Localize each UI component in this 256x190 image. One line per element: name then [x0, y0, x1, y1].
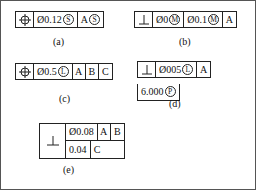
- material-condition-modifier: M: [169, 14, 180, 25]
- datum-cell: A: [223, 12, 236, 27]
- tolerance-cell: Ø0.5L: [34, 64, 73, 79]
- datum-cell-secondary: B: [86, 64, 99, 79]
- diameter-symbol: Ø: [69, 127, 76, 137]
- perpendicularity-symbol: [135, 12, 153, 27]
- feature-control-frame-b: Ø0M Ø0.1M A: [134, 11, 237, 31]
- fcf-e-frame: Ø0.08 A B 0.04 C: [39, 123, 125, 159]
- figure-caption-b: (b): [179, 36, 191, 47]
- tolerance-value: 0.08: [76, 127, 94, 137]
- tolerance-cell: Ø0.12S: [34, 12, 78, 27]
- fcf-b-frame: Ø0M Ø0.1M A: [134, 11, 237, 28]
- figure-caption-a: (a): [53, 36, 64, 47]
- tolerance-cell: Ø0M: [153, 12, 184, 27]
- position-symbol: [16, 64, 34, 79]
- datum-cell-primary: C: [91, 141, 104, 158]
- datum-cell-secondary: B: [111, 124, 124, 140]
- diameter-symbol: Ø: [159, 65, 166, 75]
- tolerance-value: 005: [166, 65, 181, 75]
- composite-row-upper: Ø0.08 A B: [66, 124, 124, 141]
- composite-row-lower: 0.04 C: [66, 141, 124, 158]
- diameter-symbol: Ø: [37, 67, 44, 77]
- diameter-symbol: Ø: [37, 15, 44, 25]
- tolerance-value: 0.04: [69, 145, 87, 155]
- datum-cell-primary: A: [98, 124, 111, 140]
- feature-control-frame-a: Ø0.12S AS: [15, 11, 104, 31]
- datum-cell-tertiary: C: [99, 64, 112, 79]
- tolerance-value: 0.5: [44, 67, 57, 77]
- tolerance-cell: Ø0.08: [66, 124, 98, 140]
- datum-cell: A: [197, 62, 210, 77]
- material-condition-modifier: M: [208, 14, 219, 25]
- datum-cell-primary: A: [73, 64, 86, 79]
- drawing-sheet: Ø0.12S AS (a) Ø0M: [0, 0, 256, 190]
- feature-control-frame-e: Ø0.08 A B 0.04 C: [39, 123, 125, 159]
- perpendicularity-symbol: [40, 124, 66, 158]
- datum-cell: AS: [78, 12, 103, 27]
- composite-rows: Ø0.08 A B 0.04 C: [66, 124, 124, 158]
- diameter-symbol: Ø: [156, 15, 163, 25]
- datum-modifier: S: [89, 14, 100, 25]
- feature-control-frame-d: Ø005L A 6.000P: [137, 61, 255, 101]
- fcf-d-frame: Ø005L A: [137, 61, 211, 78]
- perpendicularity-symbol: [138, 62, 156, 77]
- material-condition-modifier: L: [58, 66, 69, 77]
- diameter-symbol: Ø: [187, 15, 194, 25]
- fcf-a-frame: Ø0.12S AS: [15, 11, 104, 28]
- material-condition-modifier: S: [63, 14, 74, 25]
- fcf-c-frame: Ø0.5L A B C: [15, 63, 113, 80]
- tolerance-cell: Ø005L: [156, 62, 197, 77]
- material-condition-modifier: L: [182, 64, 193, 75]
- projected-zone-modifier: P: [165, 86, 176, 97]
- projected-zone-value: 6.000: [141, 87, 164, 97]
- figure-caption-d: (d): [169, 98, 181, 109]
- tolerance-value: 0: [163, 15, 168, 25]
- feature-control-frame-c: Ø0.5L A B C: [15, 63, 113, 83]
- tolerance-cell-secondary: Ø0.1M: [184, 12, 223, 27]
- tolerance-value: 0.12: [44, 15, 62, 25]
- figure-caption-c: (c): [59, 93, 70, 104]
- datum-letter: A: [81, 15, 88, 25]
- figure-caption-e: (e): [63, 164, 74, 175]
- tolerance-value: 0.1: [194, 15, 207, 25]
- position-symbol: [16, 12, 34, 27]
- tolerance-cell: 0.04: [66, 141, 91, 158]
